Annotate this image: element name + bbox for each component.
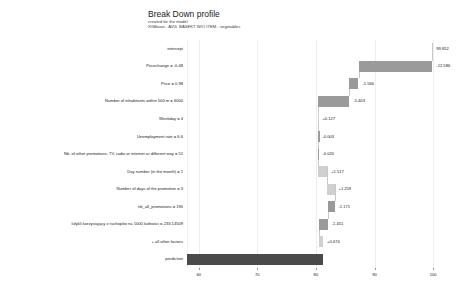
value-label: +0.127 xyxy=(322,116,335,122)
connector-line xyxy=(327,166,328,184)
waterfall-bar[interactable] xyxy=(319,219,328,230)
category-label: + all other factors xyxy=(0,239,183,245)
gridline-60 xyxy=(199,40,200,268)
waterfall-bar[interactable] xyxy=(187,254,323,265)
value-label: -1.171 xyxy=(339,204,351,210)
waterfall-bar[interactable] xyxy=(318,131,319,142)
category-label: intercept xyxy=(0,46,183,52)
x-tick-mark xyxy=(199,268,200,270)
waterfall-bar[interactable] xyxy=(359,61,433,72)
x-tick-label: 80 xyxy=(304,272,328,278)
waterfall-bar[interactable] xyxy=(318,113,319,124)
value-label: -1.451 xyxy=(332,221,344,227)
break-down-profile-chart: Break Down profile created for the model… xyxy=(0,0,474,296)
category-label: nb_all_promotions = 190 xyxy=(0,204,183,210)
connector-line xyxy=(335,184,336,202)
category-label: Day number (in the month) = 1 xyxy=(0,169,183,175)
waterfall-bar[interactable] xyxy=(327,184,334,195)
plot-area xyxy=(187,40,439,268)
value-label: +0.674 xyxy=(327,239,340,245)
category-label: Weekday = 4 xyxy=(0,116,183,122)
gridline-100 xyxy=(433,40,434,268)
gridline-90 xyxy=(375,40,376,268)
chart-header: Break Down profile created for the model… xyxy=(148,9,240,29)
waterfall-bar[interactable] xyxy=(318,96,350,107)
x-tick-label: 70 xyxy=(245,272,269,278)
category-label: Number of inhabitants within 500 m = 600… xyxy=(0,98,183,104)
category-label: Pricechange = -0.48 xyxy=(0,63,183,69)
waterfall-bar[interactable] xyxy=(318,166,327,177)
panel-border xyxy=(187,40,439,268)
x-tick-mark xyxy=(433,268,434,270)
value-label: -0.020 xyxy=(322,151,334,157)
category-label: lułykli korzystający z ruchopilw na 1000… xyxy=(0,221,183,227)
value-label: -1.566 xyxy=(363,81,375,87)
x-tick-label: 60 xyxy=(187,272,211,278)
x-tick-mark xyxy=(375,268,376,270)
connector-line xyxy=(432,43,433,61)
x-tick-label: 100 xyxy=(421,272,445,278)
value-label: -0.003 xyxy=(322,134,334,140)
x-tick-mark xyxy=(316,268,317,270)
x-tick-label: 90 xyxy=(363,272,387,278)
gridline-80 xyxy=(316,40,317,268)
category-label: Number of days of the promotion = 3 xyxy=(0,186,183,192)
category-label: Nb. of other promotions: TV, radio or in… xyxy=(0,151,183,157)
category-label: Unemployment rate = 6.6 xyxy=(0,134,183,140)
waterfall-bar[interactable] xyxy=(328,201,335,212)
value-label: +1.259 xyxy=(339,186,352,192)
value-label: +1.517 xyxy=(331,169,344,175)
waterfall-bar[interactable] xyxy=(319,236,323,247)
value-label: 99.852 xyxy=(436,46,449,52)
value-label: -12.586 xyxy=(436,63,450,69)
value-label: -5.403 xyxy=(353,98,365,104)
chart-title: Break Down profile xyxy=(148,9,240,19)
waterfall-bar[interactable] xyxy=(349,78,358,89)
category-label: prediction xyxy=(0,256,183,262)
waterfall-bar[interactable] xyxy=(318,149,319,160)
gridline-70 xyxy=(257,40,258,268)
x-tick-mark xyxy=(257,268,258,270)
chart-subtitle-line-2: XGBoost - AVG. BASEKT W/O ITEM - vegetab… xyxy=(148,24,240,29)
category-label: Price = 0.98 xyxy=(0,81,183,87)
